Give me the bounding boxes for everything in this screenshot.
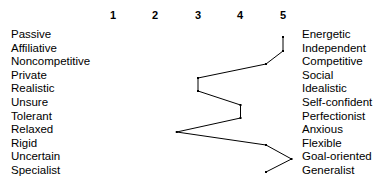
left-pole-label: Uncertain bbox=[11, 150, 90, 164]
left-pole-label: Affiliative bbox=[11, 42, 90, 56]
right-pole-label: Idealistic bbox=[302, 82, 372, 96]
left-pole-label: Rigid bbox=[11, 137, 90, 151]
x-tick-2: 2 bbox=[148, 8, 162, 22]
profile-line bbox=[177, 37, 292, 172]
left-pole-label: Realistic bbox=[11, 82, 90, 96]
left-pole-label: Specialist bbox=[11, 164, 90, 178]
right-pole-label: Energetic bbox=[302, 28, 372, 42]
semantic-differential-profile-chart: 1 2 3 4 5 Passive Affiliative Noncompeti… bbox=[0, 0, 387, 191]
profile-data-point bbox=[240, 104, 242, 106]
profile-data-point bbox=[265, 63, 267, 65]
x-tick-4: 4 bbox=[233, 8, 247, 22]
left-pole-label: Relaxed bbox=[11, 123, 90, 137]
left-pole-label: Private bbox=[11, 69, 90, 83]
profile-data-point bbox=[197, 90, 199, 92]
x-tick-5: 5 bbox=[276, 8, 290, 22]
right-pole-label: Generalist bbox=[302, 164, 372, 178]
x-tick-1: 1 bbox=[106, 8, 120, 22]
right-pole-label: Perfectionist bbox=[302, 110, 372, 124]
x-axis-tick-labels: 1 2 3 4 5 bbox=[0, 8, 387, 24]
left-pole-label: Passive bbox=[11, 28, 90, 42]
profile-data-point bbox=[282, 36, 284, 38]
left-pole-label-column: Passive Affiliative Noncompetitive Priva… bbox=[11, 28, 90, 178]
right-pole-label: Competitive bbox=[302, 55, 372, 69]
profile-data-point bbox=[265, 144, 267, 146]
profile-data-point bbox=[282, 50, 284, 52]
right-pole-label-column: Energetic Independent Competitive Social… bbox=[302, 28, 372, 178]
profile-data-point bbox=[265, 171, 267, 173]
profile-data-point bbox=[291, 158, 293, 160]
left-pole-label: Unsure bbox=[11, 96, 90, 110]
left-pole-label: Noncompetitive bbox=[11, 55, 90, 69]
profile-markers bbox=[176, 36, 293, 173]
right-pole-label: Flexible bbox=[302, 137, 372, 151]
right-pole-label: Social bbox=[302, 69, 372, 83]
right-pole-label: Goal-oriented bbox=[302, 150, 372, 164]
right-pole-label: Anxious bbox=[302, 123, 372, 137]
profile-data-point bbox=[176, 131, 178, 133]
profile-data-point bbox=[197, 77, 199, 79]
profile-data-point bbox=[240, 117, 242, 119]
x-tick-3: 3 bbox=[191, 8, 205, 22]
right-pole-label: Self-confident bbox=[302, 96, 372, 110]
right-pole-label: Independent bbox=[302, 42, 372, 56]
left-pole-label: Tolerant bbox=[11, 110, 90, 124]
